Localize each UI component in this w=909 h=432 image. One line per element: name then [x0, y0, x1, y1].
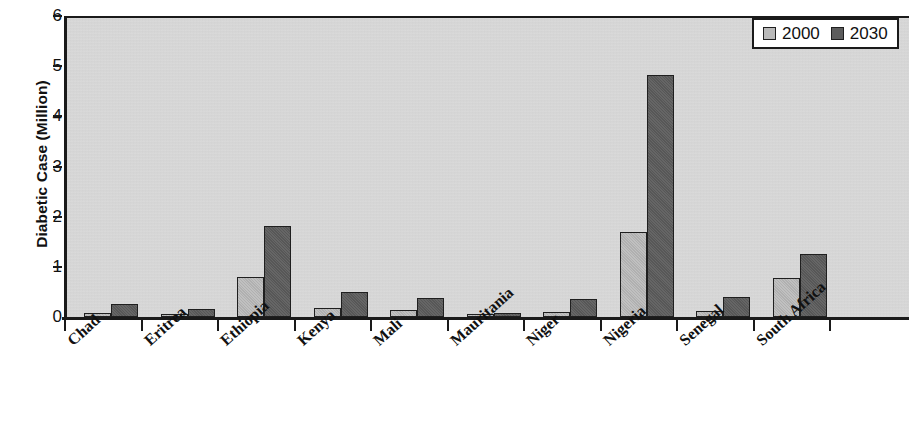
bar-chad-2030 — [111, 304, 138, 317]
y-tick-mark-6 — [53, 15, 62, 17]
bar-nigeria-2030 — [647, 75, 674, 317]
x-tick-mark-6 — [523, 320, 525, 331]
legend-swatch-2000-icon — [763, 27, 776, 40]
bar-mali-2030 — [417, 298, 444, 317]
x-tick-mark-10 — [829, 320, 831, 331]
x-tick-mark-7 — [600, 320, 602, 331]
bar-ethiopia-2030 — [264, 226, 291, 317]
bar-senegal-2030 — [723, 297, 750, 317]
plot-area — [64, 16, 909, 317]
y-tick-mark-3 — [53, 166, 62, 168]
legend-label-2030: 2030 — [850, 24, 888, 44]
x-tick-mark-2 — [217, 320, 219, 331]
legend-swatch-2030-icon — [831, 27, 844, 40]
y-tick-mark-4 — [53, 115, 62, 117]
x-tick-mark-0 — [64, 320, 66, 331]
legend-entry-2000: 2000 — [763, 24, 820, 44]
bar-eritrea-2030 — [188, 309, 215, 317]
x-tick-mark-4 — [370, 320, 372, 331]
y-axis-ticks: 6543210 — [0, 0, 62, 432]
x-tick-mark-1 — [141, 320, 143, 331]
y-tick-mark-2 — [53, 216, 62, 218]
y-tick-mark-1 — [53, 266, 62, 268]
y-tick-label-0: 0 — [16, 307, 62, 327]
bar-niger-2030 — [570, 299, 597, 317]
legend-label-2000: 2000 — [782, 24, 820, 44]
chart-legend: 2000 2030 — [752, 18, 899, 49]
bar-kenya-2030 — [341, 292, 368, 317]
x-tick-mark-3 — [294, 320, 296, 331]
x-tick-mark-8 — [676, 320, 678, 331]
x-tick-mark-5 — [447, 320, 449, 331]
x-tick-mark-9 — [753, 320, 755, 331]
y-tick-mark-5 — [53, 65, 62, 67]
legend-entry-2030: 2030 — [831, 24, 888, 44]
